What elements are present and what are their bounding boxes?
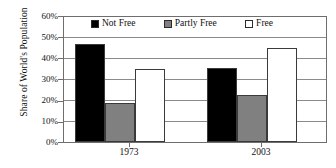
legend-swatch-free	[245, 20, 253, 28]
bar-group-1973	[75, 17, 165, 142]
legend-label-free: Free	[256, 19, 273, 29]
bar-partly-free-2003[interactable]	[237, 95, 267, 142]
legend-swatch-not-free	[91, 20, 99, 28]
bar-not-free-2003[interactable]	[207, 68, 237, 142]
legend-swatch-partly-free	[164, 20, 172, 28]
legend-item-free[interactable]: Free	[245, 19, 273, 29]
bar-free-1973[interactable]	[135, 69, 165, 142]
bar-partly-free-1973[interactable]	[105, 103, 135, 142]
x-tick-label-2003: 2003	[231, 147, 291, 157]
y-tick-label-20: 20%	[24, 96, 58, 105]
y-tick-label-60: 60%	[24, 12, 58, 21]
y-tick-label-40: 40%	[24, 54, 58, 63]
x-tick-label-1973: 1973	[99, 147, 159, 157]
y-tick-label-0: 0%	[24, 138, 58, 147]
bar-group-2003	[207, 17, 297, 142]
bar-free-2003[interactable]	[267, 48, 297, 142]
legend-label-partly-free: Partly Free	[175, 19, 217, 29]
bar-not-free-1973[interactable]	[75, 44, 105, 142]
y-tick-label-10: 10%	[24, 117, 58, 126]
plot-area	[63, 16, 327, 143]
y-tick-label-30: 30%	[24, 75, 58, 84]
y-tick-label-50: 50%	[24, 33, 58, 42]
legend-item-partly-free[interactable]: Partly Free	[164, 19, 217, 29]
chart-figure: Share of World's Population 60% 50% 40% …	[0, 0, 336, 168]
chart-legend: Not Free Partly Free Free	[85, 16, 279, 31]
legend-item-not-free[interactable]: Not Free	[91, 19, 136, 29]
legend-label-not-free: Not Free	[102, 19, 136, 29]
